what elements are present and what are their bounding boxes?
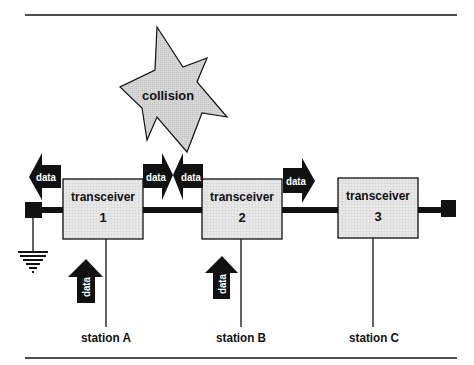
data-arrow-label: data [181,171,202,183]
data-arrow-label: data [216,273,228,294]
transceiver-3-number: 3 [374,209,381,224]
data-arrow-up-station-b: data [205,256,238,299]
data-arrow-right-1: data [143,153,173,200]
station-b-label: station B [216,330,266,345]
diagram-canvas: collision transceiver 1 transceiver 2 tr… [0,0,474,365]
transceiver-3-label: transceiver [346,188,410,203]
transceiver-1-label: transceiver [71,189,135,204]
data-arrow-label: data [80,276,92,297]
transceiver-1-number: 1 [99,210,106,225]
collision-label: collision [142,88,194,103]
data-arrow-left-2: data [173,153,203,200]
data-arrow-right-2: data [283,158,315,203]
transceiver-3: transceiver 3 [338,178,418,238]
transceiver-2-number: 2 [238,210,245,225]
data-arrow-label: data [36,171,57,183]
transceiver-1: transceiver 1 [63,179,143,239]
transceiver-2: transceiver 2 [202,179,282,239]
station-a-label: station A [81,330,132,345]
transceiver-2-label: transceiver [210,189,274,204]
data-arrow-left-1: data [29,153,61,200]
data-arrow-up-station-a: data [68,259,103,303]
ground-icon [18,218,48,272]
station-c-label: station C [349,330,400,345]
collision-burst: collision [120,27,227,152]
terminator-right [441,200,456,217]
terminator-left [25,202,42,218]
data-arrow-label: data [286,175,307,187]
data-arrow-label: data [146,171,167,183]
